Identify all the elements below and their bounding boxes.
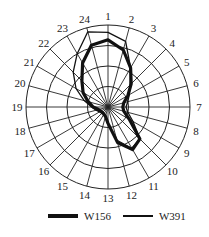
thin-line-swatch-icon	[123, 215, 153, 216]
direction-label: 1	[105, 10, 111, 22]
legend-label: W156	[84, 210, 111, 222]
direction-label: 12	[126, 189, 137, 201]
direction-label: 24	[79, 13, 91, 25]
direction-label: 15	[57, 180, 69, 192]
direction-label: 19	[12, 101, 24, 113]
direction-label: 22	[38, 37, 49, 49]
direction-label: 5	[184, 56, 190, 68]
thick-line-swatch-icon	[48, 214, 78, 218]
direction-label: 10	[167, 165, 179, 177]
legend-item-w156: W156	[48, 210, 111, 222]
direction-label: 23	[57, 22, 69, 34]
legend: W156 W391	[48, 208, 198, 224]
legend-item-w391: W391	[123, 210, 186, 222]
direction-label: 7	[196, 101, 202, 113]
direction-label: 6	[193, 77, 199, 89]
radar-chart: 123456789101112131415161718192021222324	[0, 0, 209, 237]
direction-label: 11	[148, 180, 159, 192]
direction-label: 18	[15, 125, 27, 137]
direction-label: 14	[79, 189, 91, 201]
direction-label: 16	[38, 165, 50, 177]
direction-label: 2	[129, 13, 135, 25]
direction-label: 4	[170, 37, 176, 49]
radar-grid	[26, 25, 190, 189]
direction-label: 20	[15, 77, 27, 89]
direction-label: 3	[151, 22, 157, 34]
legend-label: W391	[159, 210, 186, 222]
direction-label: 21	[24, 56, 35, 68]
direction-label: 13	[103, 192, 115, 204]
direction-label: 17	[24, 147, 36, 159]
direction-label: 9	[184, 147, 190, 159]
direction-label: 8	[193, 125, 199, 137]
